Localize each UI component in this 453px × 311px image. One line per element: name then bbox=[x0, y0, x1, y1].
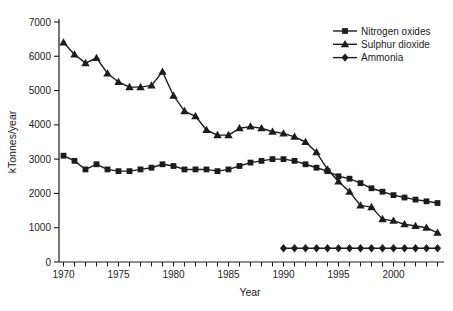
triangle-marker-icon bbox=[169, 91, 177, 98]
square-marker-icon bbox=[237, 163, 243, 169]
square-marker-icon bbox=[380, 189, 386, 195]
diamond-marker-icon bbox=[280, 244, 287, 252]
series-line-sulphur-dioxide bbox=[64, 43, 438, 233]
diamond-marker-icon bbox=[423, 244, 430, 252]
y-axis-title: kTonnes/year bbox=[6, 110, 18, 173]
square-marker-icon bbox=[402, 195, 408, 201]
legend-item-nitrogen-oxides: Nitrogen oxides bbox=[333, 26, 430, 37]
square-marker-icon bbox=[83, 167, 89, 173]
y-tick-label: 4000 bbox=[29, 119, 52, 130]
square-marker-icon bbox=[149, 165, 155, 171]
emissions-line-chart-figure: 0100020003000400050006000700019701975198… bbox=[0, 0, 453, 311]
x-tick-label: 1975 bbox=[107, 269, 130, 280]
square-marker-icon bbox=[413, 197, 419, 203]
legend-item-ammonia: Ammonia bbox=[333, 52, 404, 63]
legend-label: Sulphur dioxide bbox=[361, 39, 430, 50]
legend-item-sulphur-dioxide: Sulphur dioxide bbox=[333, 39, 430, 50]
square-marker-icon bbox=[435, 200, 441, 206]
triangle-marker-icon bbox=[323, 165, 331, 172]
x-tick-label: 1985 bbox=[217, 269, 240, 280]
square-marker-icon bbox=[270, 156, 276, 162]
square-marker-icon bbox=[171, 163, 177, 169]
triangle-marker-icon bbox=[114, 78, 122, 85]
x-tick-label: 1990 bbox=[272, 269, 295, 280]
x-axis-title: Year bbox=[239, 286, 261, 298]
square-marker-icon bbox=[424, 198, 430, 204]
diamond-marker-icon bbox=[357, 244, 364, 252]
y-tick-label: 6000 bbox=[29, 51, 52, 62]
diamond-marker-icon bbox=[379, 244, 386, 252]
square-marker-icon bbox=[182, 167, 188, 173]
square-marker-icon bbox=[204, 167, 210, 173]
triangle-marker-icon bbox=[158, 67, 166, 74]
square-marker-icon bbox=[347, 176, 353, 182]
square-marker-icon bbox=[342, 28, 348, 34]
triangle-marker-icon bbox=[59, 38, 67, 45]
legend-label: Ammonia bbox=[361, 52, 404, 63]
square-marker-icon bbox=[116, 168, 122, 174]
square-marker-icon bbox=[94, 161, 100, 167]
diamond-marker-icon bbox=[401, 244, 408, 252]
square-marker-icon bbox=[391, 192, 397, 198]
emissions-chart-canvas: 0100020003000400050006000700019701975198… bbox=[0, 0, 453, 311]
square-marker-icon bbox=[226, 167, 232, 173]
series-sulphur-dioxide bbox=[59, 38, 441, 236]
square-marker-icon bbox=[281, 156, 287, 162]
y-tick-label: 0 bbox=[45, 257, 51, 268]
x-tick-label: 2000 bbox=[382, 269, 405, 280]
square-marker-icon bbox=[248, 160, 254, 166]
square-marker-icon bbox=[105, 167, 111, 173]
square-marker-icon bbox=[292, 158, 298, 164]
square-marker-icon bbox=[369, 185, 375, 191]
diamond-marker-icon bbox=[346, 244, 353, 252]
y-tick-label: 3000 bbox=[29, 154, 52, 165]
square-marker-icon bbox=[160, 161, 166, 167]
square-marker-icon bbox=[127, 168, 133, 174]
legend-label: Nitrogen oxides bbox=[361, 26, 430, 37]
triangle-marker-icon bbox=[92, 54, 100, 61]
diamond-marker-icon bbox=[390, 244, 397, 252]
diamond-marker-icon bbox=[342, 53, 349, 61]
square-marker-icon bbox=[303, 161, 309, 167]
diamond-marker-icon bbox=[412, 244, 419, 252]
x-tick-label: 1970 bbox=[52, 269, 75, 280]
y-tick-label: 2000 bbox=[29, 188, 52, 199]
triangle-marker-icon bbox=[246, 122, 254, 129]
y-tick-label: 1000 bbox=[29, 222, 52, 233]
x-tick-label: 1980 bbox=[162, 269, 185, 280]
x-tick-label: 1995 bbox=[327, 269, 350, 280]
diamond-marker-icon bbox=[324, 244, 331, 252]
y-tick-label: 5000 bbox=[29, 85, 52, 96]
diamond-marker-icon bbox=[302, 244, 309, 252]
square-marker-icon bbox=[215, 168, 221, 174]
diamond-marker-icon bbox=[335, 244, 342, 252]
series-nitrogen-oxides bbox=[61, 153, 441, 206]
diamond-marker-icon bbox=[291, 244, 298, 252]
square-marker-icon bbox=[138, 167, 144, 173]
diamond-marker-icon bbox=[368, 244, 375, 252]
legend: Nitrogen oxidesSulphur dioxideAmmonia bbox=[333, 26, 430, 64]
square-marker-icon bbox=[358, 180, 364, 186]
diamond-marker-icon bbox=[434, 244, 441, 252]
diamond-marker-icon bbox=[313, 244, 320, 252]
series-ammonia bbox=[280, 244, 441, 252]
square-marker-icon bbox=[193, 167, 199, 173]
y-tick-label: 7000 bbox=[29, 17, 52, 28]
series-layer bbox=[59, 38, 441, 252]
square-marker-icon bbox=[72, 158, 78, 164]
square-marker-icon bbox=[61, 153, 67, 159]
square-marker-icon bbox=[314, 165, 320, 171]
square-marker-icon bbox=[259, 158, 265, 164]
